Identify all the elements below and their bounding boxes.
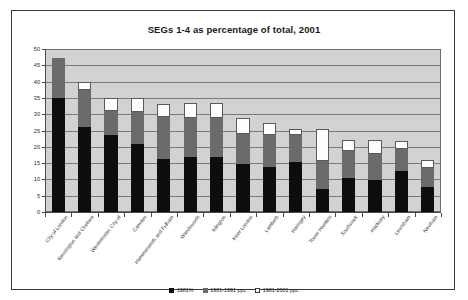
chart-page: SEGs 1-4 as percentage of total, 2001 05… xyxy=(0,0,468,300)
bar-segment xyxy=(131,144,144,212)
bar-segment xyxy=(131,112,144,143)
bar-segment xyxy=(421,160,434,168)
x-axis-label-wrap: Haringey xyxy=(289,214,306,234)
x-axis-label-wrap: Lambeth xyxy=(263,214,280,233)
bar-segment xyxy=(368,140,381,154)
legend-label: 1981-1991 ppc xyxy=(210,287,246,293)
x-axis-tick-label: City of London xyxy=(44,214,69,244)
y-axis-tick-label: 40 xyxy=(34,79,40,85)
bar-segment xyxy=(421,187,434,212)
x-axis-labels: City of LondonKensington and ChelseaWest… xyxy=(45,214,441,284)
bar-slot xyxy=(71,49,97,212)
x-axis-label-wrap: Inner London xyxy=(230,214,253,241)
bar-segment xyxy=(289,162,302,212)
bar-segment xyxy=(52,58,65,97)
x-axis-tick-label: Camden xyxy=(131,214,148,233)
x-axis-label-wrap: Camden xyxy=(131,214,148,233)
x-axis-label-wrap: Westminster, City of xyxy=(89,214,122,253)
legend-label: 1981-2001 ppc xyxy=(263,287,299,293)
legend-item[interactable]: 1981-1991 ppc xyxy=(203,287,246,293)
bar-segment xyxy=(78,127,91,212)
bar-segment xyxy=(184,103,197,118)
x-axis xyxy=(45,212,441,213)
bar-segment xyxy=(368,154,381,180)
y-axis-tick-label: 15 xyxy=(34,160,40,166)
bar-segment xyxy=(184,157,197,212)
black-square-icon xyxy=(169,288,174,293)
y-axis-tick-label: 0 xyxy=(37,209,40,215)
bar-segment xyxy=(316,161,329,188)
x-axis-label-wrap: Wandsworth xyxy=(179,214,201,240)
bar-segment xyxy=(78,90,91,127)
x-axis-tick-label: Lambeth xyxy=(263,214,280,233)
bar-segment xyxy=(184,118,197,156)
chart-legend: 1981%1981-1991 ppc1981-2001 ppc xyxy=(12,287,456,293)
bar-slot xyxy=(362,49,388,212)
bar-segment xyxy=(210,118,223,156)
bar-slot xyxy=(230,49,256,212)
bar-segment xyxy=(210,103,223,118)
white-square-icon xyxy=(255,288,260,293)
bar-segment xyxy=(236,134,249,164)
bar-segment xyxy=(104,98,117,111)
bar-segment xyxy=(104,135,117,212)
bar-segment xyxy=(395,141,408,148)
y-axis-tick-label: 20 xyxy=(34,144,40,150)
x-axis-tick-label: Tower Hamlets xyxy=(307,214,332,244)
gray-square-icon xyxy=(203,288,208,293)
x-axis-tick-label: Westminster, City of xyxy=(89,214,122,253)
x-axis-tick-label: Wandsworth xyxy=(179,214,201,240)
x-axis-label-wrap: City of London xyxy=(44,214,69,244)
chart-figure-frame: SEGs 1-4 as percentage of total, 2001 05… xyxy=(11,10,455,290)
bar-segment xyxy=(78,82,91,90)
x-axis-tick-label: Islington xyxy=(211,214,227,233)
y-axis-tick-label: 30 xyxy=(34,111,40,117)
bar-segment xyxy=(342,140,355,151)
x-axis-label-wrap: Hackney xyxy=(369,214,386,233)
bar-segment xyxy=(421,168,434,187)
x-axis-tick-label: Lewisham xyxy=(393,214,412,236)
bar-segment xyxy=(157,117,170,159)
legend-item[interactable]: 1981-2001 ppc xyxy=(255,287,298,293)
chart-title: SEGs 1-4 as percentage of total, 2001 xyxy=(12,24,456,35)
bar-segment xyxy=(395,149,408,171)
bar-slot xyxy=(203,49,229,212)
x-axis-label-wrap: Southwark xyxy=(340,214,360,237)
x-axis-tick-label: Southwark xyxy=(340,214,360,237)
bar-slot xyxy=(256,49,282,212)
bar-segment xyxy=(157,159,170,212)
bar-segment xyxy=(342,151,355,178)
bar-segment xyxy=(157,104,170,116)
bar-slot xyxy=(98,49,124,212)
bar-segment xyxy=(52,98,65,212)
x-axis-label-wrap: Tower Hamlets xyxy=(307,214,332,244)
x-axis-tick-label: Hackney xyxy=(369,214,386,233)
x-axis-tick xyxy=(441,213,442,217)
bar-slot xyxy=(177,49,203,212)
x-axis-tick-label: Haringey xyxy=(289,214,306,234)
y-axis-tick-label: 45 xyxy=(34,62,40,68)
x-axis-label-wrap: Lewisham xyxy=(393,214,412,236)
bar-slot xyxy=(124,49,150,212)
x-axis-label-wrap: Islington xyxy=(211,214,227,233)
bar-slot xyxy=(151,49,177,212)
y-axis-tick-label: 50 xyxy=(34,46,40,52)
x-axis-label-wrap: Newham xyxy=(421,214,438,234)
bar-segment xyxy=(316,129,329,161)
bar-segment xyxy=(263,123,276,135)
bar-slot xyxy=(388,49,414,212)
bar-segment xyxy=(236,164,249,212)
bar-segment xyxy=(104,111,117,135)
y-axis-tick-label: 25 xyxy=(34,128,40,134)
y-axis-tick-label: 5 xyxy=(37,193,40,199)
y-axis-tick-label: 35 xyxy=(34,95,40,101)
bar-segment xyxy=(289,135,302,162)
bar-segment xyxy=(131,98,144,112)
bar-series-group xyxy=(45,49,441,212)
x-axis-tick-label: Newham xyxy=(421,214,438,234)
bar-segment xyxy=(316,189,329,212)
legend-item[interactable]: 1981% xyxy=(169,287,193,293)
bar-slot xyxy=(309,49,335,212)
bar-segment xyxy=(368,180,381,212)
bar-slot xyxy=(415,49,441,212)
